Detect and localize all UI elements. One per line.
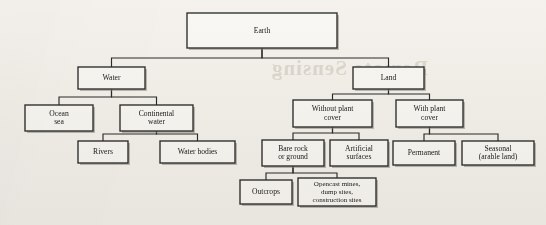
node-without_plant[interactable]: Without plantcover xyxy=(293,100,374,129)
node-opencast[interactable]: Opencast mines,dump sites,construction s… xyxy=(298,178,378,208)
node-label-water: Water xyxy=(103,73,121,82)
node-label-outcrops: Outcrops xyxy=(252,187,280,196)
node-rivers[interactable]: Rivers xyxy=(78,141,130,165)
node-label-permanent: Permanent xyxy=(408,148,441,157)
node-earth[interactable]: Earth xyxy=(187,13,339,50)
node-water_bodies[interactable]: Water bodies xyxy=(160,141,237,165)
connector-earth-to-land xyxy=(262,48,389,67)
node-label-bare_rock: Bare rockor ground xyxy=(278,143,308,161)
connector-with_plant-to-seasonal xyxy=(430,127,499,141)
node-ocean_sea[interactable]: Oceansea xyxy=(25,105,95,133)
node-seasonal[interactable]: Seasonal(arable land) xyxy=(462,141,536,167)
diagram-page: Remote Sensing EarthWaterLandOceanseaCon… xyxy=(0,0,546,225)
node-with_plant[interactable]: With plantcover xyxy=(396,100,465,129)
connector-with_plant-to-permanent xyxy=(424,127,430,141)
node-artificial[interactable]: Artificialsurfaces xyxy=(330,140,390,168)
node-layer: EarthWaterLandOceanseaContinentalwaterRi… xyxy=(25,13,536,208)
node-land[interactable]: Land xyxy=(353,67,426,91)
node-label-rivers: Rivers xyxy=(93,147,113,156)
node-outcrops[interactable]: Outcrops xyxy=(240,180,294,206)
node-water[interactable]: Water xyxy=(78,67,147,91)
node-label-earth: Earth xyxy=(254,25,271,34)
earth-classification-tree-diagram: EarthWaterLandOceanseaContinentalwaterRi… xyxy=(0,0,546,225)
connector-water-to-cont_water xyxy=(112,89,157,105)
node-permanent[interactable]: Permanent xyxy=(393,141,457,167)
node-label-water_bodies: Water bodies xyxy=(178,147,218,156)
node-label-land: Land xyxy=(381,73,397,82)
connector-earth-to-water xyxy=(112,48,263,67)
node-label-artificial: Artificialsurfaces xyxy=(345,143,373,161)
connector-bare_rock-to-outcrops xyxy=(266,166,293,180)
node-bare_rock[interactable]: Bare rockor ground xyxy=(262,140,326,168)
node-cont_water[interactable]: Continentalwater xyxy=(120,105,195,133)
connector-water-to-ocean_sea xyxy=(59,89,112,105)
